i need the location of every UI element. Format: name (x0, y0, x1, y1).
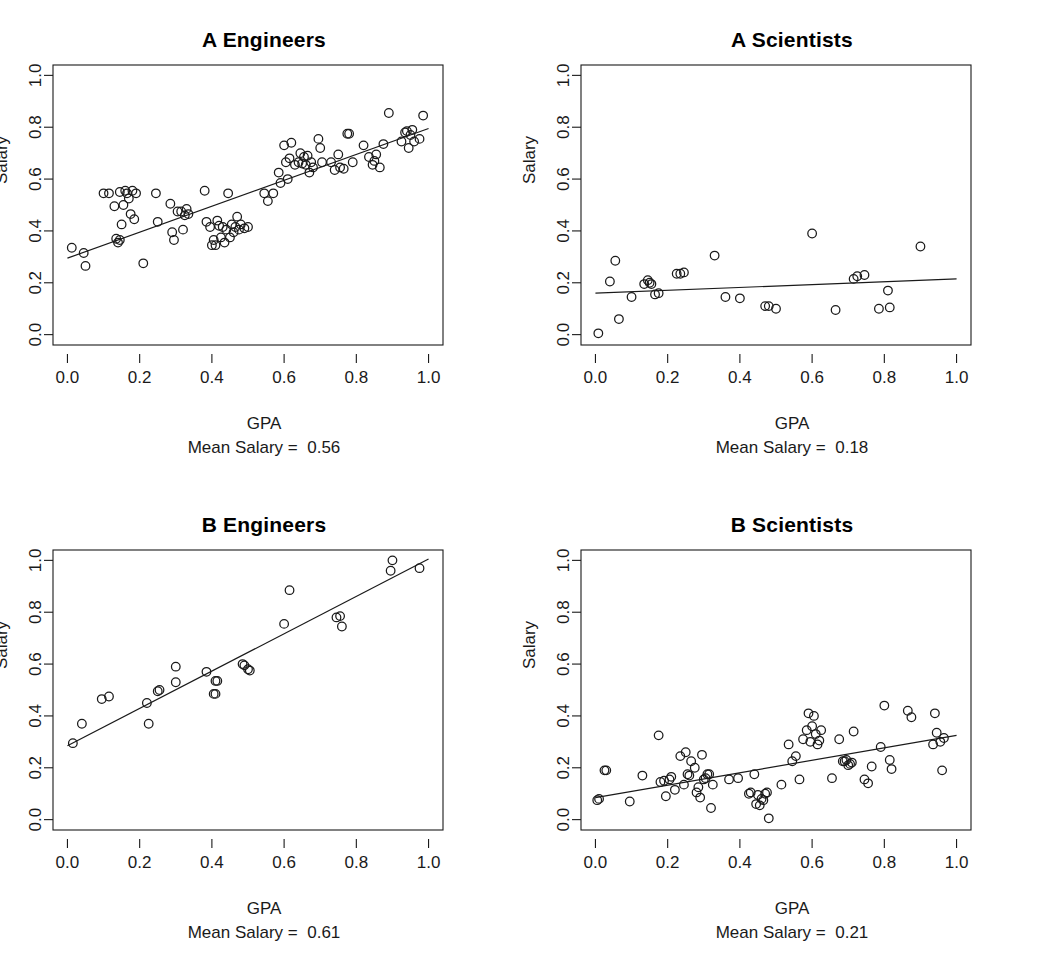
data-point (625, 797, 634, 806)
x-tick-label: 0.0 (584, 853, 608, 872)
data-point (835, 735, 844, 744)
data-point (139, 259, 148, 268)
y-tick-label: 0.6 (26, 167, 45, 191)
x-tick-label: 0.8 (873, 853, 897, 872)
data-point (764, 814, 773, 823)
data-point (224, 189, 233, 198)
data-point (78, 719, 87, 728)
data-point (415, 564, 424, 573)
y-tick-label: 0.4 (554, 219, 573, 243)
data-point (274, 168, 283, 177)
data-point (667, 773, 676, 782)
data-point (285, 586, 294, 595)
data-point (330, 166, 339, 175)
regression-line (67, 559, 428, 746)
plot-frame (581, 65, 971, 345)
x-tick-label: 0.6 (800, 368, 824, 387)
data-point (318, 158, 327, 167)
x-tick-label: 0.2 (656, 368, 680, 387)
scatter-plot-svg: 0.00.20.40.60.81.00.00.20.40.60.81.0 (521, 538, 993, 888)
scatter-plot-svg: 0.00.20.40.60.81.00.00.20.40.60.81.0 (0, 538, 465, 888)
data-point (166, 199, 175, 208)
data-point (907, 713, 916, 722)
panel-b-engineers: B EngineersSalaryGPAMean Salary = 0.610.… (0, 485, 528, 969)
y-tick-label: 0.4 (554, 704, 573, 728)
data-point (654, 731, 663, 740)
data-point (638, 771, 647, 780)
panel-a-engineers: A EngineersSalaryGPAMean Salary = 0.560.… (0, 0, 528, 484)
y-tick-label: 0.8 (26, 600, 45, 624)
data-point (880, 701, 889, 710)
x-tick-label: 0.0 (56, 368, 80, 387)
x-tick-label: 1.0 (417, 368, 441, 387)
y-tick-label: 0.2 (26, 271, 45, 295)
data-point (170, 236, 179, 245)
data-point (810, 712, 819, 721)
data-point (415, 135, 424, 144)
data-point (105, 189, 114, 198)
data-point (269, 189, 278, 198)
data-point (916, 242, 925, 251)
data-point (721, 293, 730, 302)
data-point (710, 251, 719, 260)
data-point (671, 786, 680, 795)
y-tick-label: 0.2 (554, 271, 573, 295)
y-tick-label: 0.8 (554, 600, 573, 624)
y-tick-label: 0.6 (554, 167, 573, 191)
regression-line (595, 279, 956, 293)
y-tick-label: 0.6 (554, 652, 573, 676)
data-point (828, 774, 837, 783)
data-point (338, 622, 347, 631)
y-tick-label: 0.0 (26, 323, 45, 347)
scatter-plot-svg: 0.00.20.40.60.81.00.00.20.40.60.81.0 (521, 53, 993, 403)
data-point (772, 304, 781, 313)
data-point (152, 189, 161, 198)
data-point (408, 126, 417, 135)
y-tick-label: 1.0 (26, 64, 45, 88)
x-tick-label: 0.8 (873, 368, 897, 387)
data-point (410, 137, 419, 146)
x-tick-label: 0.8 (345, 368, 369, 387)
data-point (750, 770, 759, 779)
data-point (615, 315, 624, 324)
data-point (662, 792, 671, 801)
data-point (594, 329, 603, 338)
x-tick-label: 0.6 (272, 368, 296, 387)
data-point (606, 277, 615, 286)
data-point (386, 566, 395, 575)
panel-a-scientists: A ScientistsSalaryGPAMean Salary = 0.180… (528, 0, 1056, 484)
data-point (280, 620, 289, 629)
regression-line (595, 735, 956, 797)
data-point (287, 138, 296, 147)
plot-frame (581, 550, 971, 830)
data-point (784, 740, 793, 749)
y-tick-label: 0.2 (26, 756, 45, 780)
data-point (804, 709, 813, 718)
panel-title: A Scientists (528, 28, 1056, 52)
x-tick-label: 0.4 (200, 853, 224, 872)
data-point (117, 220, 126, 229)
data-point (885, 303, 894, 312)
x-tick-label: 1.0 (945, 368, 969, 387)
data-point (680, 780, 689, 789)
data-point (709, 780, 718, 789)
plot-frame (53, 65, 443, 345)
data-point (627, 293, 636, 302)
data-point (867, 762, 876, 771)
data-point (264, 197, 273, 206)
y-tick-label: 0.0 (554, 323, 573, 347)
data-point (316, 144, 325, 153)
x-tick-label: 0.0 (584, 368, 608, 387)
panel-title: B Engineers (0, 513, 528, 537)
data-point (831, 306, 840, 315)
panel-title: A Engineers (0, 28, 528, 52)
data-point (876, 743, 885, 752)
x-tick-label: 0.2 (128, 853, 152, 872)
plot-area: 0.00.20.40.60.81.00.00.20.40.60.81.0 (53, 65, 443, 345)
data-point (110, 202, 119, 211)
y-tick-label: 1.0 (554, 549, 573, 573)
data-point (795, 775, 804, 784)
data-point (388, 556, 397, 565)
x-tick-label: 0.8 (345, 853, 369, 872)
data-point (376, 163, 385, 172)
